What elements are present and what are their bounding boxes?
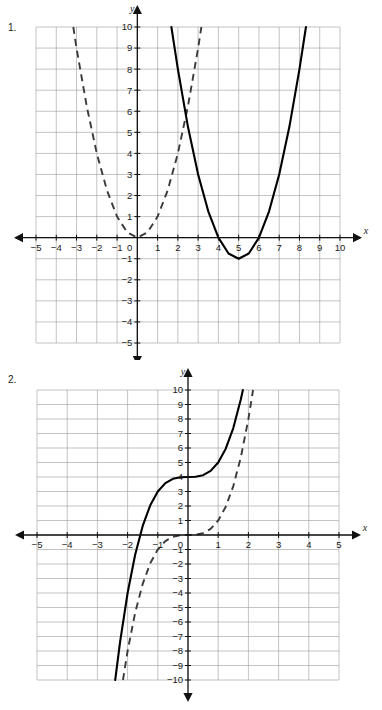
y-tick-label: 4 bbox=[178, 471, 183, 482]
tick-labels: −5−4−3−2−112345−10−9−8−7−6−5−4−3−2−11234… bbox=[32, 366, 368, 685]
y-tick-label: 3 bbox=[127, 169, 132, 180]
y-tick-label: −3 bbox=[172, 573, 183, 584]
y-tick-label: 5 bbox=[127, 127, 132, 138]
x-tick-label: −4 bbox=[51, 242, 62, 253]
y-tick-label: 4 bbox=[127, 148, 132, 159]
y-tick-label: 8 bbox=[178, 413, 183, 424]
x-tick-label: −5 bbox=[31, 242, 42, 253]
y-tick-label: −4 bbox=[121, 316, 132, 327]
graph-1-canvas: −5−4−3−2−112345678910−5−4−3−2−1123456789… bbox=[0, 0, 382, 360]
y-tick-label: 7 bbox=[178, 428, 183, 439]
curves-group bbox=[73, 27, 306, 259]
axes-group bbox=[14, 5, 362, 360]
x-tick-label: −3 bbox=[92, 539, 103, 550]
y-tick-label: −10 bbox=[167, 674, 183, 685]
x-axis-arrow-left-icon bbox=[15, 530, 24, 539]
y-tick-label: −3 bbox=[121, 295, 132, 306]
y-tick-label: 10 bbox=[172, 384, 183, 395]
x-axis-name-label: x bbox=[362, 522, 368, 533]
x-axis-arrow-right-icon bbox=[353, 233, 362, 242]
x-tick-label: 3 bbox=[276, 539, 281, 550]
tick-labels: −5−4−3−2−112345678910−5−4−3−2−1123456789… bbox=[31, 3, 369, 348]
x-tick-label: −1 bbox=[112, 242, 123, 253]
x-tick-label: 5 bbox=[336, 539, 341, 550]
y-tick-label: 1 bbox=[178, 515, 183, 526]
x-tick-label: 2 bbox=[175, 242, 180, 253]
x-tick-label: 7 bbox=[277, 242, 282, 253]
origin-label: 0 bbox=[127, 242, 132, 253]
y-tick-label: 2 bbox=[127, 190, 132, 201]
x-tick-label: 6 bbox=[256, 242, 261, 253]
y-tick-label: 9 bbox=[127, 42, 132, 53]
y-tick-label: −1 bbox=[121, 253, 132, 264]
x-tick-label: −2 bbox=[91, 242, 102, 253]
y-tick-label: 7 bbox=[127, 85, 132, 96]
graph-2-canvas: −5−4−3−2−112345−10−9−8−7−6−5−4−3−2−11234… bbox=[0, 350, 382, 710]
x-axis-arrow-left-icon bbox=[14, 233, 23, 242]
origin-label: 0 bbox=[178, 539, 183, 550]
x-tick-label: 5 bbox=[236, 242, 241, 253]
x-tick-label: 4 bbox=[216, 242, 221, 253]
y-tick-label: −2 bbox=[121, 274, 132, 285]
y-tick-label: −7 bbox=[172, 631, 183, 642]
y-axis-name-label: y bbox=[129, 3, 135, 14]
problem-1-block: 1. −5−4−3−2−112345678910−5−4−3−2−1123456… bbox=[0, 0, 382, 360]
x-tick-label: −3 bbox=[71, 242, 82, 253]
y-tick-label: −2 bbox=[172, 558, 183, 569]
x-axis-arrow-right-icon bbox=[352, 530, 361, 539]
y-tick-label: 6 bbox=[178, 442, 183, 453]
x-tick-label: 8 bbox=[297, 242, 302, 253]
y-tick-label: 9 bbox=[178, 399, 183, 410]
y-tick-label: −4 bbox=[172, 587, 183, 598]
x-tick-label: 9 bbox=[317, 242, 322, 253]
x-tick-label: 4 bbox=[306, 539, 311, 550]
y-tick-label: −5 bbox=[121, 337, 132, 348]
x-tick-label: −5 bbox=[32, 539, 43, 550]
y-tick-label: 3 bbox=[178, 486, 183, 497]
y-tick-label: 5 bbox=[178, 457, 183, 468]
x-tick-label: 3 bbox=[195, 242, 200, 253]
y-tick-label: 2 bbox=[178, 500, 183, 511]
x-tick-label: 10 bbox=[335, 242, 346, 253]
y-tick-label: 1 bbox=[127, 211, 132, 222]
y-tick-label: −8 bbox=[172, 645, 183, 656]
y-tick-label: −5 bbox=[172, 602, 183, 613]
problem-2-block: 2. −5−4−3−2−112345−10−9−8−7−6−5−4−3−2−11… bbox=[0, 350, 382, 710]
x-tick-label: 1 bbox=[155, 242, 160, 253]
y-tick-label: 10 bbox=[122, 21, 133, 32]
x-tick-label: −2 bbox=[122, 539, 133, 550]
y-tick-label: 8 bbox=[127, 64, 132, 75]
x-axis-name-label: x bbox=[363, 225, 369, 236]
y-tick-label: −9 bbox=[172, 660, 183, 671]
y-axis-name-label: y bbox=[180, 366, 186, 377]
x-tick-label: −4 bbox=[62, 539, 73, 550]
x-tick-label: 2 bbox=[246, 539, 251, 550]
y-tick-label: −6 bbox=[172, 616, 183, 627]
y-tick-label: 6 bbox=[127, 106, 132, 117]
x-tick-label: 1 bbox=[216, 539, 221, 550]
x-tick-label: −1 bbox=[152, 539, 163, 550]
y-axis-arrow-down-icon bbox=[183, 693, 192, 702]
